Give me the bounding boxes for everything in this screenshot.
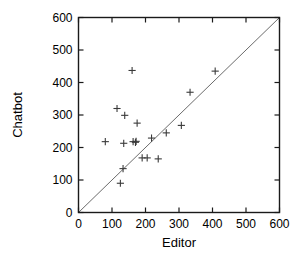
x-tick-label: 600	[269, 217, 289, 231]
y-tick-label: 600	[52, 11, 72, 25]
y-tick-label: 500	[52, 43, 72, 57]
data-point	[144, 154, 151, 161]
data-point	[148, 134, 155, 141]
data-point	[117, 180, 124, 187]
x-tick-label: 300	[169, 217, 189, 231]
y-tick-label: 300	[52, 108, 72, 122]
identity-reference-line	[79, 18, 280, 213]
data-point	[121, 112, 128, 119]
x-axis-title: Editor	[162, 235, 197, 250]
x-tick-label: 400	[202, 217, 222, 231]
y-tick-label: 200	[52, 141, 72, 155]
y-tick-label: 100	[52, 173, 72, 187]
x-tick-label: 200	[135, 217, 155, 231]
x-tick-label: 100	[102, 217, 122, 231]
data-point	[102, 138, 109, 145]
scatter-chart: 01002003004005006000100200300400500600Ed…	[0, 0, 305, 273]
data-point	[129, 67, 136, 74]
x-tick-label: 500	[236, 217, 256, 231]
data-point	[212, 68, 219, 75]
data-point	[120, 140, 127, 147]
data-point	[113, 105, 120, 112]
data-point	[186, 89, 193, 96]
data-point	[155, 155, 162, 162]
y-tick-label: 0	[66, 206, 73, 220]
data-point	[178, 122, 185, 129]
x-tick-label: 0	[75, 217, 82, 231]
y-axis-title: Chatbot	[10, 92, 25, 138]
data-point	[134, 120, 141, 127]
y-tick-label: 400	[52, 76, 72, 90]
